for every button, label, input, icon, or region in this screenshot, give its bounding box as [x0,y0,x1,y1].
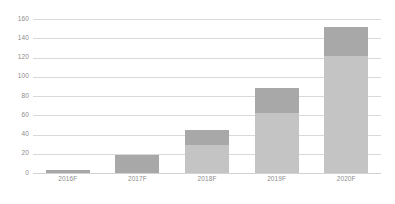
gridline [33,173,381,174]
bar [255,88,299,173]
bar-segment-lower [115,155,159,173]
x-axis-tick-label: 2019F [267,176,286,183]
y-axis-tick-label: 100 [3,73,29,80]
x-axis-tick-label: 2018F [198,176,217,183]
y-axis-tick-label: 140 [3,35,29,42]
bar [324,27,368,173]
bar-segment-upper [324,27,368,56]
bar-segment-lower [185,145,229,173]
y-axis-tick-label: 80 [3,93,29,100]
y-axis-tick-label: 40 [3,131,29,138]
bar [115,155,159,173]
y-axis-tick-label: 160 [3,16,29,23]
x-axis: 2016F2017F2018F2019F2020F [33,176,381,190]
bar-segment-lower [255,113,299,173]
gridline [33,19,381,20]
bar-segment-lower [324,56,368,173]
bar [46,170,90,173]
x-axis-tick-label: 2016F [58,176,77,183]
y-axis-tick-label: 60 [3,112,29,119]
bar-chart: 020406080100120140160 2016F2017F2018F201… [0,0,395,204]
x-axis-tick-label: 2017F [128,176,147,183]
y-axis-tick-label: 120 [3,54,29,61]
y-axis: 020406080100120140160 [0,19,29,173]
y-axis-tick-label: 20 [3,150,29,157]
bar-segment-upper [255,88,299,113]
bar-segment-lower [46,170,90,173]
bar-segment-upper [185,130,229,145]
y-axis-tick-label: 0 [3,170,29,177]
plot-area [33,19,381,173]
x-axis-tick-label: 2020F [337,176,356,183]
bar [185,130,229,173]
